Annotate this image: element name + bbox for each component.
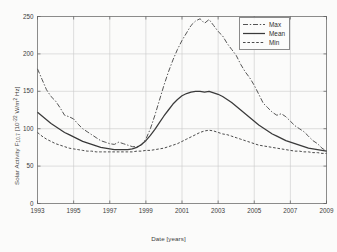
- x-tick-label: 2007: [277, 207, 303, 214]
- legend-item-min[interactable]: Min: [243, 38, 285, 47]
- legend-swatch-icon: [243, 21, 265, 28]
- y-tick-label: 0: [12, 200, 34, 207]
- x-tick-label: 1995: [61, 207, 87, 214]
- y-tick-label: 100: [12, 125, 34, 132]
- legend-swatch-icon: [243, 30, 265, 37]
- x-tick-label: 1993: [25, 207, 51, 214]
- y-axis-label-sup: -22: [13, 115, 18, 122]
- y-tick-label: 200: [12, 50, 34, 57]
- x-tick-label: 2005: [241, 207, 267, 214]
- y-axis-label-suffix: W/m: [13, 101, 20, 116]
- x-axis-label: Date [years]: [0, 235, 337, 242]
- x-tick-label: 2001: [169, 207, 195, 214]
- legend-item-max[interactable]: Max: [243, 20, 285, 29]
- y-axis-label-sub: 10.7: [16, 133, 21, 142]
- legend-label: Max: [269, 21, 281, 28]
- x-tick-label: 2009: [314, 207, 337, 214]
- y-tick-label: 150: [12, 87, 34, 94]
- legend-label: Mean: [269, 30, 285, 37]
- x-tick-label: 1997: [97, 207, 123, 214]
- solar-activity-chart: Solar Activity F10.7 [10-22 W/m2 Hz] Dat…: [0, 0, 337, 252]
- y-axis-label: Solar Activity F10.7 [10-22 W/m2 Hz]: [13, 87, 21, 185]
- y-tick-label: 50: [12, 162, 34, 169]
- x-tick-label: 1999: [133, 207, 159, 214]
- x-tick-label: 2003: [205, 207, 231, 214]
- legend-item-mean[interactable]: Mean: [243, 29, 285, 38]
- legend-swatch-icon: [243, 39, 265, 46]
- y-tick-label: 250: [12, 13, 34, 20]
- y-axis-label-sup2: 2: [13, 98, 18, 101]
- chart-legend: MaxMeanMin: [239, 17, 290, 50]
- legend-label: Min: [269, 39, 279, 46]
